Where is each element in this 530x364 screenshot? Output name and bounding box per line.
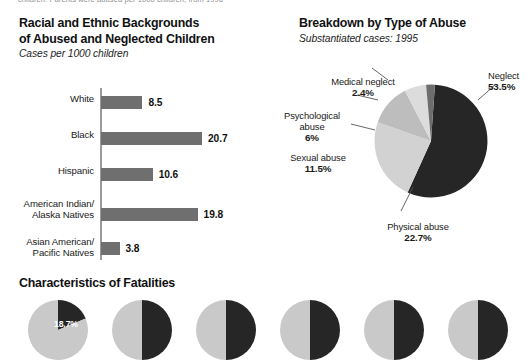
bar-value-label: 3.8 [126, 243, 140, 254]
bar-rect [101, 208, 198, 221]
bar-rect [101, 168, 153, 181]
bar-category-label: Asian American/Pacific Natives [2, 236, 94, 259]
mini-pie [448, 300, 508, 360]
pie-slice-value: 11.5% [305, 163, 332, 174]
bar-category-label: Hispanic [2, 165, 94, 176]
bar-chart-panel: Racial and Ethnic Backgrounds of Abused … [0, 0, 265, 270]
bar-row: Asian American/Pacific Natives3.8 [0, 236, 265, 270]
pie-slice-value: 2.4% [352, 87, 374, 98]
mini-pie-slice [280, 300, 310, 360]
fatalities-panel: Characteristics of Fatalities 18.7% [0, 270, 530, 332]
pie-slice-value: 53.5% [488, 81, 515, 92]
pie-slice-label-line: Physical abuse [365, 221, 471, 232]
pie-slice-label-line: abuse [267, 121, 357, 132]
pie-slice-label-line: Psychological [267, 110, 357, 121]
mini-pie-slice [364, 300, 394, 360]
bar-category-label-line: Alaska Natives [2, 209, 94, 220]
bar-category-label: Black [2, 129, 94, 140]
mini-pie-slice [448, 300, 478, 360]
pie-chart-panel: Breakdown by Type of Abuse Substantiated… [265, 0, 530, 270]
bar-category-label-line: Pacific Natives [2, 247, 94, 258]
mini-pie-graphic [280, 300, 340, 360]
pie-slice-label-line: Medical neglect [303, 76, 423, 87]
bar-value-label: 8.5 [148, 97, 162, 108]
mini-pie-graphic [448, 300, 508, 360]
mini-pie-slice [196, 300, 226, 360]
pie-slice-label: Medical neglect2.4% [303, 76, 423, 98]
pie-slice-value-wrap: 11.5% [275, 163, 361, 174]
pie-chart-subtitle: Substantiated cases: 1995 [299, 33, 418, 44]
bar-chart-title: Racial and Ethnic Backgrounds of Abused … [19, 16, 259, 47]
bar-rect [101, 132, 202, 145]
pie-slice-label: Neglect53.5% [488, 70, 530, 92]
pie-slice-value-wrap: 2.4% [303, 87, 423, 98]
bar-category-label: White [2, 93, 94, 104]
bar-value-label: 20.7 [208, 133, 227, 144]
mini-pie [196, 300, 256, 360]
mini-pie-value: 18.7% [54, 319, 78, 329]
bar-chart-title-line1: Racial and Ethnic Backgrounds [19, 16, 259, 32]
pie-slice-value: 22.7% [404, 232, 431, 243]
bar-value-label: 19.8 [204, 209, 223, 220]
pie-slice-value-wrap: 53.5% [488, 81, 530, 92]
pie-slice-label: Psychologicalabuse6% [267, 110, 357, 143]
mini-pie-slice [226, 300, 256, 360]
bar-category-label-line: American Indian/ [2, 198, 94, 209]
pie-slice-label-line: Sexual abuse [275, 152, 361, 163]
mini-pie-slice [112, 300, 142, 360]
bar-row: Black20.7 [0, 126, 265, 160]
bar-category-label-line: Black [2, 129, 94, 140]
bar-rect [101, 242, 120, 255]
pie-slice-label-line: Neglect [488, 70, 530, 81]
bar-category-label-line: White [2, 93, 94, 104]
mini-pie-graphic [112, 300, 172, 360]
mini-pie-slice [310, 300, 340, 360]
bar-rect [101, 96, 142, 109]
bar-chart-plot: White8.5Black20.7Hispanic10.6American In… [0, 88, 265, 260]
bar-chart-subtitle: Cases per 1000 children [19, 48, 128, 59]
bar-category-label-line: Asian American/ [2, 236, 94, 247]
mini-pie-slice [478, 300, 508, 360]
mini-pie [364, 300, 424, 360]
mini-pie-slice [394, 300, 424, 360]
bar-category-label: American Indian/Alaska Natives [2, 198, 94, 221]
mini-pie [280, 300, 340, 360]
mini-pie-graphic [196, 300, 256, 360]
fatalities-mini-pies: 18.7% [0, 300, 530, 332]
mini-pie: 18.7% [28, 300, 88, 360]
mini-pie-graphic [364, 300, 424, 360]
pie-slice-value: 6% [305, 132, 319, 143]
bar-category-label-line: Hispanic [2, 165, 94, 176]
pie-slice-value-wrap: 6% [267, 132, 357, 143]
bar-value-label: 10.6 [159, 169, 178, 180]
bar-row: White8.5 [0, 90, 265, 124]
pie-slice-label: Sexual abuse11.5% [275, 152, 361, 174]
bar-row: Hispanic10.6 [0, 162, 265, 196]
pie-slice-label: Physical abuse22.7% [365, 221, 471, 243]
bar-chart-title-line2: of Abused and Neglected Children [19, 32, 259, 48]
fatalities-title: Characteristics of Fatalities [19, 276, 175, 292]
pie-slice-value-wrap: 22.7% [365, 232, 471, 243]
mini-pie-slice [142, 300, 172, 360]
mini-pie-graphic [28, 300, 88, 360]
bar-row: American Indian/Alaska Natives19.8 [0, 198, 265, 232]
mini-pie [112, 300, 172, 360]
pie-chart-title: Breakdown by Type of Abuse [299, 16, 466, 32]
